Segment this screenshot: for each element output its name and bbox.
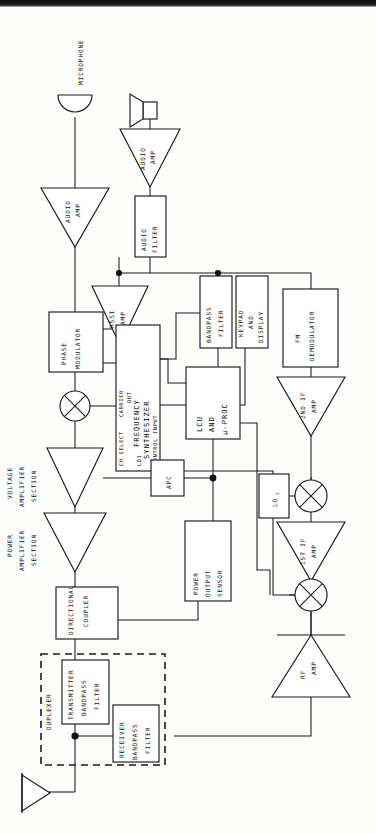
frequency-synthesizer[interactable]: CH SELECT CARRIER OUT FREQUENCY SYNTHESI… [116, 325, 160, 471]
rx-bpf-label-line1: RECEIVER [118, 721, 125, 758]
fm-demod-label-line1: FM [294, 334, 301, 343]
power-sensor-label-line1: POWER [192, 572, 199, 595]
junction-audio-filter [116, 270, 122, 276]
audio-amp-receive[interactable]: AUDIO AMP [120, 129, 180, 196]
duplexer-label: DUPLEXER [45, 693, 52, 730]
audio-filter-label-line1: AUDIO [140, 228, 147, 251]
synth-ch-select-label: CH SELECT [118, 431, 124, 466]
keypad-label-line1: KEYPAD [237, 310, 244, 337]
audio-amp-rx-label-line1: AUDIO [139, 147, 146, 170]
dir-coupler-label-line2: COUPLER [82, 595, 89, 627]
transmit-mixer[interactable] [60, 391, 90, 421]
lcu-label-line1: LCU [196, 416, 204, 432]
voltage-amp-label-line2: AMPLIFIER [18, 466, 25, 507]
synth-lo1-label: LO1 [136, 454, 142, 466]
rssi-amp-label-line1: RSSI [108, 310, 115, 328]
transmitter-bandpass-filter[interactable]: TRANSMITTER BANDPASS FILTER [62, 660, 109, 724]
diagram-paper: MICROPHONE AUDIO AMP AUDIO AMP AUDIO FIL… [0, 7, 376, 833]
bandpass-filter[interactable]: BANDPASS FILTER [200, 276, 232, 348]
dir-coupler-label-line1: DIRECTIONAL [67, 585, 74, 635]
synth-carrier-out-label-line1: CARRIER [118, 390, 124, 417]
keypad-label-line3: DISPLAY [257, 311, 264, 343]
power-sensor-label-line2: OUTPUT [204, 570, 211, 597]
first-if-label-line1: 1ST IF [299, 538, 306, 565]
power-amp-label-line1: POWER [6, 534, 13, 557]
apc-label: APC [165, 475, 172, 489]
tx-bpf-label-line2: BANDPASS [80, 679, 87, 716]
first-if-label-line2: AMP [310, 544, 317, 558]
diagram-canvas: MICROPHONE AUDIO AMP AUDIO AMP AUDIO FIL… [0, 0, 376, 833]
keypad-label-line2: AND [247, 315, 254, 329]
synth-name-label-line2: SYNTHESIZER [143, 401, 151, 459]
rx-bpf-label-line3: FILTER [144, 727, 151, 754]
phase-modulator-label-line2: MODULATOR [74, 328, 81, 369]
lcu-label-line2: AND [208, 416, 216, 432]
bandpass-filter-label-line1: BANDPASS [205, 306, 212, 343]
microphone-label: MICROPHONE [77, 39, 84, 85]
block-diagram-svg: MICROPHONE AUDIO AMP AUDIO AMP AUDIO FIL… [0, 7, 376, 833]
junction-apc-sensor [210, 475, 217, 482]
lcu-label-line3: µ-PROC [221, 403, 229, 435]
bandpass-filter-label-line2: FILTER [217, 310, 224, 337]
receive-mixer[interactable] [295, 449, 327, 522]
audio-amp-tx-label-line1: AUDIO [64, 200, 71, 223]
audio-amp-transmit[interactable]: AUDIO AMP [41, 188, 109, 247]
fm-demodulator[interactable]: FM DEMODULATOR [283, 289, 338, 377]
local-oscillator-2[interactable]: LO 2 [259, 474, 296, 518]
rf-amplifier[interactable]: RF AMP [272, 635, 350, 697]
tx-bpf-label-line3: FILTER [93, 683, 100, 710]
second-if-amplifier[interactable]: 2ND IF AMP [277, 377, 345, 449]
audio-filter[interactable]: AUDIO FILTER [135, 196, 166, 273]
voltage-amplifier-section[interactable]: VOLTAGE AMPLIFIER SECTION [6, 448, 103, 507]
keypad-and-display[interactable]: KEYPAD AND DISPLAY [236, 276, 268, 348]
rx-bpf-label-line2: BANDPASS [131, 723, 138, 760]
audio-filter-label-line2: FILTER [151, 226, 158, 253]
audio-amp-tx-label-line2: AMP [74, 203, 81, 217]
tx-bpf-label-line1: TRANSMITTER [67, 670, 74, 720]
audio-amp-rx-label-line2: AMP [149, 150, 156, 164]
first-mixer[interactable] [295, 579, 327, 635]
power-amp-label-line3: SECTION [30, 534, 37, 566]
lo2-label: LO [271, 498, 278, 507]
power-amplifier-section[interactable]: POWER AMPLIFIER SECTION [6, 513, 106, 572]
voltage-amp-label-line1: VOLTAGE [6, 467, 13, 499]
antenna-symbol[interactable] [22, 773, 50, 813]
directional-coupler[interactable]: DIRECTIONAL COUPLER [56, 585, 118, 639]
rf-amp-label-line2: AMP [310, 661, 317, 675]
power-sensor-label-line3: SENSOR [216, 570, 223, 597]
second-if-label-line1: 2ND IF [299, 392, 306, 419]
phase-modulator-label-line1: PHASE [60, 342, 67, 365]
receiver-bandpass-filter[interactable]: RECEIVER BANDPASS FILTER [113, 705, 159, 762]
speaker[interactable] [130, 94, 157, 129]
power-output-sensor[interactable]: POWER OUTPUT SENSOR [185, 521, 231, 601]
rf-amp-label-line1: RF [299, 670, 306, 679]
junction-bandpass-tap [215, 270, 221, 276]
junction-duplexer-antenna [71, 732, 78, 739]
lcu-and-microprocessor[interactable]: LCU AND µ-PROC [186, 367, 240, 439]
phase-modulator[interactable]: PHASE MODULATOR [49, 312, 103, 372]
synth-name-label-line1: FREQUENCY [133, 399, 141, 447]
first-if-amplifier[interactable]: 1ST IF AMP [277, 522, 345, 581]
microphone[interactable]: MICROPHONE [58, 39, 92, 112]
fm-demod-label-line2: DEMODULATOR [308, 311, 315, 361]
apc-block[interactable]: APC [151, 460, 184, 496]
synth-control-input-label: CONTROL INPUT [152, 415, 158, 465]
scan-edge-artifact [0, 0, 376, 7]
voltage-amp-label-line3: SECTION [30, 470, 37, 502]
second-if-label-line2: AMP [310, 399, 317, 413]
lo2-subscript: 2 [275, 492, 280, 496]
rssi-amp-label-line2: AMP [119, 311, 126, 325]
synth-carrier-out-label-line2: OUT [126, 391, 132, 403]
power-amp-label-line2: AMPLIFIER [18, 530, 25, 571]
